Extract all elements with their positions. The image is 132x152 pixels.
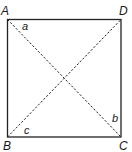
angle-label-b: b <box>112 112 118 124</box>
vertex-label-c: C <box>119 139 128 152</box>
vertex-label-d: D <box>119 4 128 18</box>
vertex-label-b: B <box>3 139 11 152</box>
angle-label-c: c <box>24 124 30 136</box>
angle-label-a: a <box>22 20 28 32</box>
vertex-label-a: A <box>0 4 9 18</box>
square-diagonals-diagram: A D B C a b c <box>0 0 132 152</box>
